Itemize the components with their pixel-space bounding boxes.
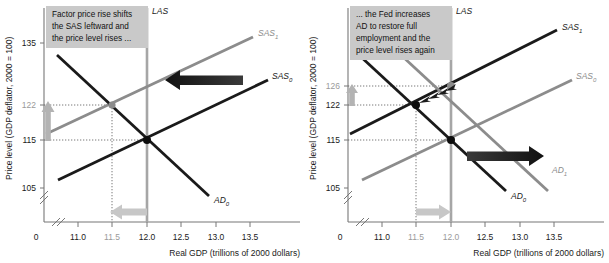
real-gdp-up-arrow	[416, 205, 451, 220]
y-tick-marks	[344, 86, 348, 188]
panel-left: 135 122 115 105 0 11.0 11.5 12.0 12.5 13…	[0, 0, 305, 263]
y-tick-label-122: 122	[22, 100, 36, 110]
callout-line-1: Factor price rise shifts	[52, 10, 132, 19]
x-tick-label-12-0: 12.0	[139, 232, 156, 242]
y-tick-label-105: 105	[326, 183, 340, 193]
curve-label-sas0: SAS0	[576, 71, 597, 83]
panel-right: 126 122 115 105 0 11.0 11.5 12.0 12.5 13…	[304, 0, 609, 263]
origin-label: 0	[338, 232, 343, 242]
curve-label-sas1: SAS1	[562, 22, 582, 34]
x-tick-marks	[382, 222, 554, 227]
callout-line-1: ... the Fed increases	[356, 10, 430, 19]
x-tick-label-13-0: 13.0	[512, 232, 529, 242]
curve-label-ad1: AD1	[551, 165, 567, 177]
equilibrium-dot-unemployment	[412, 101, 420, 109]
y-tick-label-115: 115	[22, 135, 36, 145]
panel-right-plot: 126 122 115 105 0 11.0 11.5 12.0 12.5 13…	[304, 0, 609, 263]
callout-line-4: price level rises again	[356, 46, 435, 55]
callout-line-2: the SAS leftward and	[52, 22, 129, 31]
panel-left-plot: 135 122 115 105 0 11.0 11.5 12.0 12.5 13…	[0, 0, 305, 263]
x-tick-label-12-5: 12.5	[173, 232, 190, 242]
curve-sas1	[46, 37, 253, 134]
x-tick-label-12-0: 12.0	[443, 232, 460, 242]
curve-sas0	[362, 80, 572, 180]
as-ad-figure: 135 122 115 105 0 11.0 11.5 12.0 12.5 13…	[0, 0, 609, 263]
equilibrium-dot-initial	[143, 136, 151, 144]
ad-shift-right-arrow	[467, 146, 544, 166]
x-axis-title: Real GDP (trillions of 2000 dollars)	[169, 248, 300, 258]
curve-ad1	[402, 56, 548, 191]
x-axis-title: Real GDP (trillions of 2000 dollars)	[473, 248, 604, 258]
x-tick-label-11-5: 11.5	[408, 232, 424, 242]
curve-label-ad0: AD0	[510, 191, 527, 203]
x-tick-label-13-0: 13.0	[208, 232, 225, 242]
curve-label-sas0: SAS0	[272, 71, 293, 83]
y-axis-title: Price level (GDP deflator, 2000 = 100)	[308, 37, 318, 180]
x-tick-label-12-5: 12.5	[477, 232, 494, 242]
x-tick-label-11-5: 11.5	[104, 232, 120, 242]
x-tick-label-13-5: 13.5	[546, 232, 563, 242]
origin-label: 0	[34, 232, 39, 242]
real-gdp-down-arrow	[110, 205, 147, 220]
x-tick-marks	[78, 222, 250, 227]
y-tick-label-105: 105	[22, 183, 36, 193]
y-tick-marks	[40, 43, 44, 188]
curve-sas0	[58, 80, 268, 180]
y-axis-title: Price level (GDP deflator, 2000 = 100)	[4, 37, 14, 180]
curve-label-sas1: SAS1	[258, 28, 278, 40]
x-tick-label-11-0: 11.0	[70, 232, 86, 242]
x-tick-label-11-0: 11.0	[374, 232, 390, 242]
x-tick-label-13-5: 13.5	[242, 232, 259, 242]
guide-lines	[348, 86, 451, 222]
y-tick-label-135: 135	[22, 38, 36, 48]
equilibrium-dot-new	[108, 101, 115, 108]
curve-label-las: LAS	[456, 6, 472, 16]
callout-line-2: AD to restore full	[356, 22, 417, 31]
y-tick-label-122: 122	[326, 100, 340, 110]
equilibrium-dot-original	[447, 136, 455, 144]
y-tick-label-115: 115	[326, 135, 340, 145]
curve-label-las: LAS	[152, 6, 168, 16]
y-tick-label-126: 126	[326, 81, 340, 91]
curve-label-ad0: AD0	[213, 195, 230, 207]
callout-line-3: employment and the	[356, 34, 431, 43]
sas-shift-left-arrow	[165, 70, 243, 90]
callout-line-3: the price level rises ...	[52, 34, 131, 43]
